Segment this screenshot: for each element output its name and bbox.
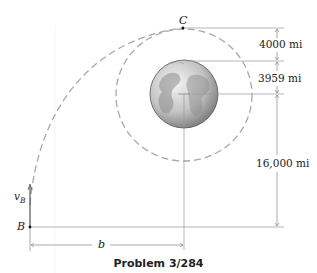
dimension-label-16000mi: 16,000 mi xyxy=(256,157,309,169)
label-velocity-vB: vB xyxy=(14,190,25,205)
horizontal-dimension-b xyxy=(30,229,183,251)
label-point-B: B xyxy=(17,220,25,233)
point-B-marker xyxy=(29,226,32,229)
velocity-subscript: B xyxy=(20,196,26,205)
dimension-label-3959mi: 3959 mi xyxy=(258,72,301,84)
label-point-C: C xyxy=(179,14,187,27)
dimension-label-b: b xyxy=(98,238,105,251)
vertical-dimension-stack xyxy=(275,29,279,226)
dimension-label-4000mi: 4000 mi xyxy=(259,38,302,50)
figure-caption: Problem 3/284 xyxy=(0,257,317,270)
